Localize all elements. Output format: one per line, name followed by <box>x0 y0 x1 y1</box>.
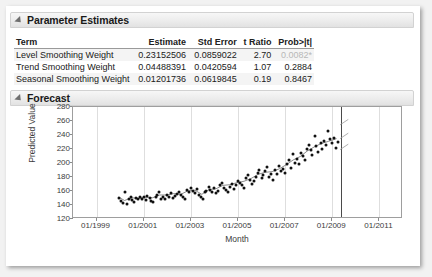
cell-term: Level Smoothing Weight <box>14 49 133 62</box>
data-point <box>287 159 290 162</box>
data-point <box>221 181 224 184</box>
table-row[interactable]: Trend Smoothing Weight0.044883910.042059… <box>14 61 314 73</box>
data-point <box>183 198 186 201</box>
data-point <box>307 143 310 146</box>
data-point <box>246 173 249 176</box>
x-tick-mark <box>96 218 97 221</box>
x-tick-mark <box>190 218 191 221</box>
table-row[interactable]: Seasonal Smoothing Weight0.012017360.061… <box>14 73 314 85</box>
data-point <box>164 198 167 201</box>
cell-estimate: 0.01201736 <box>133 73 187 85</box>
data-point <box>211 191 214 194</box>
cell-term: Seasonal Smoothing Weight <box>14 73 133 85</box>
data-point <box>270 172 273 175</box>
data-point <box>286 162 289 165</box>
data-point <box>315 145 318 148</box>
data-point <box>248 178 251 181</box>
data-point <box>242 187 245 190</box>
cell-t-ratio: 0.19 <box>239 73 274 85</box>
column-header-t-ratio: t Ratio <box>239 36 274 49</box>
data-point <box>291 152 294 155</box>
cell-t-ratio: 1.07 <box>239 61 274 73</box>
data-point <box>311 153 314 156</box>
forecast-boundary-line <box>341 107 342 217</box>
y-tick-label: 160 <box>46 186 70 195</box>
x-tick-mark <box>378 218 379 221</box>
gridline <box>332 107 333 217</box>
data-point <box>244 177 247 180</box>
cell-prob: 0.8467 <box>273 73 314 85</box>
report-page: Parameter Estimates Term Estimate Std Er… <box>6 6 420 266</box>
y-tick-label: 280 <box>46 102 70 111</box>
data-point <box>325 143 328 146</box>
data-point <box>170 192 173 195</box>
data-point <box>268 176 271 179</box>
cell-term: Trend Smoothing Weight <box>14 61 133 73</box>
data-point <box>217 190 220 193</box>
x-tick-label: 01/2011 <box>364 221 392 230</box>
x-tick-label: 01/1999 <box>81 221 110 230</box>
x-tick-label: 01/2001 <box>128 221 157 230</box>
data-point <box>278 164 281 167</box>
y-tick-label: 200 <box>46 158 70 167</box>
data-point <box>201 198 204 201</box>
data-point <box>193 192 196 195</box>
data-point <box>213 187 216 190</box>
y-tick-label: 180 <box>46 172 70 181</box>
data-point <box>195 187 198 190</box>
cell-estimate: 0.04488391 <box>133 61 187 73</box>
x-tick-mark <box>284 218 285 221</box>
data-point <box>187 191 190 194</box>
y-tick-label: 220 <box>46 144 70 153</box>
data-point <box>262 173 265 176</box>
data-point <box>335 146 338 149</box>
plot-area <box>72 106 402 218</box>
data-point <box>123 190 126 193</box>
data-point <box>205 190 208 193</box>
data-point <box>295 157 298 160</box>
cell-prob: 0.0082* <box>273 49 314 62</box>
x-tick-label: 01/2005 <box>223 221 252 230</box>
data-point <box>152 201 155 204</box>
x-tick-mark <box>237 218 238 221</box>
data-point <box>293 162 296 165</box>
data-point <box>125 203 128 206</box>
data-point <box>158 191 161 194</box>
data-point <box>252 180 255 183</box>
gridline <box>379 107 380 217</box>
data-point <box>121 201 124 204</box>
column-header-prob: Prob>|t| <box>273 36 314 49</box>
disclosure-triangle-icon[interactable] <box>14 15 23 24</box>
column-header-estimate: Estimate <box>133 36 187 49</box>
data-point <box>127 198 130 201</box>
column-header-std-error: Std Error <box>188 36 239 49</box>
table-row[interactable]: Level Smoothing Weight0.231525060.085902… <box>14 49 314 62</box>
cell-prob: 0.2884 <box>273 61 314 73</box>
data-point <box>327 129 330 132</box>
table-header-row: Term Estimate Std Error t Ratio Prob>|t| <box>14 36 314 49</box>
data-point <box>254 176 257 179</box>
y-axis-label: Predicted Value <box>27 93 37 173</box>
data-point <box>250 183 253 186</box>
y-tick-label: 120 <box>46 214 70 223</box>
data-point <box>274 169 277 172</box>
y-tick-label: 240 <box>46 130 70 139</box>
data-point <box>290 166 293 169</box>
data-point <box>231 183 234 186</box>
parameter-estimates-table: Term Estimate Std Error t Ratio Prob>|t|… <box>14 36 314 85</box>
data-point <box>282 167 285 170</box>
cell-std-error: 0.0619845 <box>188 73 239 85</box>
y-tick-label: 260 <box>46 116 70 125</box>
data-point <box>297 163 300 166</box>
panel-header-parameter-estimates[interactable]: Parameter Estimates <box>10 12 414 28</box>
cell-std-error: 0.0859022 <box>188 49 239 62</box>
data-point <box>232 187 235 190</box>
gridline <box>191 107 192 217</box>
data-point <box>133 201 136 204</box>
table-body: Level Smoothing Weight0.231525060.085902… <box>14 49 314 86</box>
data-point <box>329 138 332 141</box>
x-tick-label: 01/2003 <box>175 221 204 230</box>
data-point <box>303 158 306 161</box>
cell-std-error: 0.0420594 <box>188 61 239 73</box>
data-point <box>313 135 316 138</box>
